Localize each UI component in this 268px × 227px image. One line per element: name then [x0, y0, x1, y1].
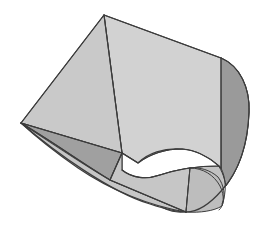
figure-canvas: Shaded three-dimensional solid: a cylind…: [0, 0, 268, 227]
solid-figure-svg: Shaded three-dimensional solid: a cylind…: [0, 0, 268, 227]
